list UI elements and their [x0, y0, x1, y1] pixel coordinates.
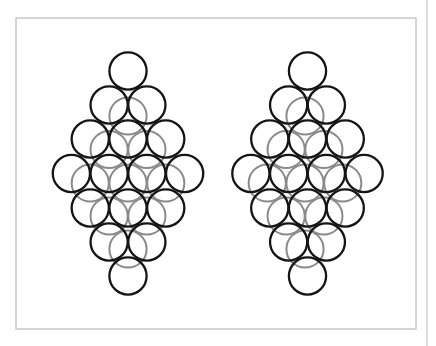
front-sphere-circle [327, 189, 364, 226]
front-sphere-circle [308, 86, 345, 123]
left-stack-diagram [53, 52, 203, 294]
front-sphere-circle [308, 223, 345, 260]
front-sphere-circle [289, 257, 326, 294]
front-layer-circles [232, 52, 382, 294]
front-sphere-circle [346, 155, 383, 192]
front-sphere-circle [270, 86, 307, 123]
front-sphere-circle [128, 223, 165, 260]
front-sphere-circle [289, 52, 326, 89]
front-sphere-circle [109, 257, 146, 294]
figure-frame [16, 18, 416, 329]
front-sphere-circle [91, 223, 128, 260]
front-sphere-circle [109, 52, 146, 89]
right-stack-diagram [232, 52, 382, 294]
front-sphere-circle [327, 120, 364, 157]
sphere-stacking-figure [0, 0, 436, 346]
